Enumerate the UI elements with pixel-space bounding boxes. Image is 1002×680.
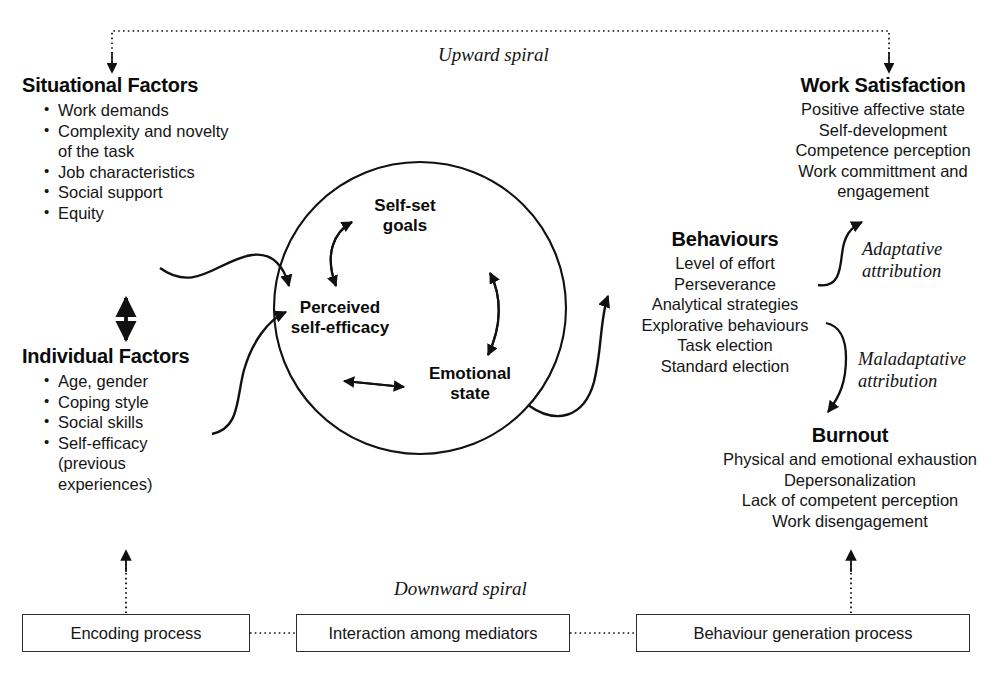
upward-spiral-label: Upward spiral — [438, 44, 549, 66]
individual-factors-block: Individual Factors Age, gender Coping st… — [22, 345, 190, 494]
list-item: Job characteristics — [44, 162, 229, 183]
work-satisfaction-list: Positive affective state Self-developmen… — [768, 99, 998, 202]
burnout-list: Physical and emotional exhaustion Depers… — [700, 449, 1000, 531]
process-box-label: Interaction among mediators — [328, 624, 537, 643]
efficacy-goals-double-arrow — [331, 222, 352, 286]
core-to-behaviours-arrow — [528, 296, 608, 416]
situational-factors-block: Situational Factors Work demands Complex… — [22, 74, 229, 223]
maladaptative-attribution-line2: attribution — [858, 370, 966, 392]
list-item: Coping style — [44, 392, 190, 413]
individual-to-core-arrow — [212, 312, 286, 434]
list-item: Lack of competent perception — [700, 490, 1000, 511]
list-item: Social skills — [44, 412, 190, 433]
behaviours-heading: Behaviours — [618, 228, 832, 251]
burnout-block: Burnout Physical and emotional exhaustio… — [700, 424, 1000, 531]
downward-spiral-label: Downward spiral — [394, 578, 527, 600]
adaptative-attribution-line1: Adaptative — [862, 238, 942, 260]
process-box-label: Behaviour generation process — [693, 624, 912, 643]
list-item: Equity — [44, 203, 229, 224]
core-node-perceived-self-efficacy: Perceived self-efficacy — [291, 298, 389, 338]
list-item: experiences) — [44, 474, 190, 495]
individual-factors-list: Age, gender Coping style Social skills S… — [44, 371, 190, 494]
core-node-self-set-goals: Self-set goals — [374, 196, 435, 236]
list-item: Analytical strategies — [618, 294, 832, 315]
goals-emotional-double-arrow — [488, 273, 499, 355]
process-box-label: Encoding process — [70, 624, 201, 643]
core-node-line1: Self-set — [374, 196, 435, 216]
list-item: Social support — [44, 182, 229, 203]
list-item: Work disengagement — [700, 511, 1000, 532]
core-node-line1: Perceived — [291, 298, 389, 318]
list-item: Work demands — [44, 100, 229, 121]
list-item: Positive affective state — [768, 99, 998, 120]
maladaptative-attribution-label: Maladaptative attribution — [858, 348, 966, 392]
list-item: Age, gender — [44, 371, 190, 392]
list-item: Task election — [618, 335, 832, 356]
work-satisfaction-heading: Work Satisfaction — [768, 74, 998, 97]
list-item: Self-development — [768, 120, 998, 141]
list-item: Self-efficacy — [44, 433, 190, 454]
list-item: engagement — [768, 181, 998, 202]
adaptative-attribution-label: Adaptative attribution — [862, 238, 942, 282]
adaptative-attribution-line2: attribution — [862, 260, 942, 282]
core-node-line1: Emotional — [429, 364, 511, 384]
list-item: Physical and emotional exhaustion — [700, 449, 1000, 470]
list-item: Perseverance — [618, 274, 832, 295]
behaviours-block: Behaviours Level of effort Perseverance … — [618, 228, 832, 376]
list-item: Standard election — [618, 356, 832, 377]
behaviours-list: Level of effort Perseverance Analytical … — [618, 253, 832, 376]
process-box-interaction-among-mediators[interactable]: Interaction among mediators — [296, 614, 570, 652]
process-box-encoding-process[interactable]: Encoding process — [22, 614, 250, 652]
individual-factors-heading: Individual Factors — [22, 345, 190, 368]
maladaptative-attribution-line1: Maladaptative — [858, 348, 966, 370]
core-node-line2: goals — [374, 216, 435, 236]
list-item: Complexity and novelty — [44, 121, 229, 142]
efficacy-emotional-double-arrow — [344, 381, 404, 387]
list-item: Work committment and — [768, 161, 998, 182]
list-item: Level of effort — [618, 253, 832, 274]
burnout-heading: Burnout — [700, 424, 1000, 447]
core-node-line2: state — [429, 384, 511, 404]
list-item: of the task — [44, 141, 229, 162]
core-node-line2: self-efficacy — [291, 318, 389, 338]
list-item: Depersonalization — [700, 470, 1000, 491]
work-satisfaction-block: Work Satisfaction Positive affective sta… — [768, 74, 998, 202]
list-item: (previous — [44, 453, 190, 474]
list-item: Competence perception — [768, 140, 998, 161]
process-box-behaviour-generation-process[interactable]: Behaviour generation process — [636, 614, 970, 652]
situational-factors-heading: Situational Factors — [22, 74, 229, 97]
list-item: Explorative behaviours — [618, 315, 832, 336]
situational-factors-list: Work demands Complexity and novelty of t… — [44, 100, 229, 223]
core-node-emotional-state: Emotional state — [429, 364, 511, 404]
situational-to-core-arrow — [160, 255, 289, 286]
diagram-canvas: Upward spiral Situational Factors Work d… — [0, 0, 1002, 680]
